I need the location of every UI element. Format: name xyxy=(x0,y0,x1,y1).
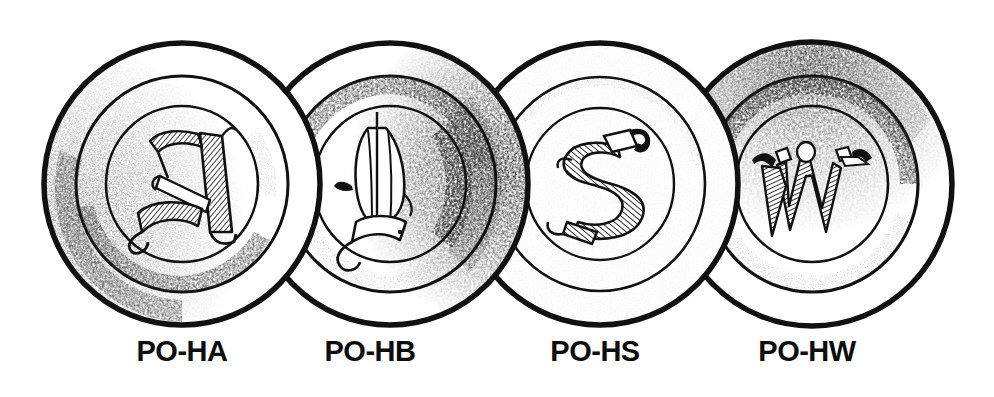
plates-drawing xyxy=(0,0,994,397)
plate-po-ha[interactable] xyxy=(44,43,320,325)
plate-illustration-figure: PO-HA PO-HB PO-HS PO-HW xyxy=(0,0,994,397)
